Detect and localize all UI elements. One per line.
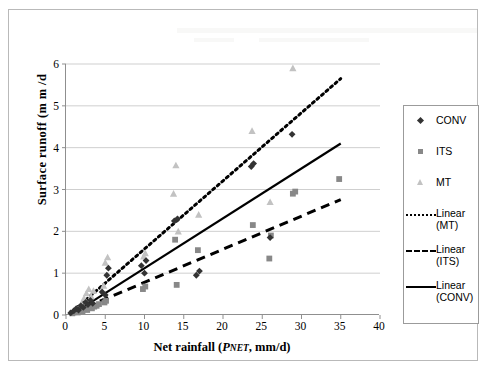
x-tick-label: 15 [163, 320, 203, 332]
legend-item[interactable]: Linear (MT) [404, 207, 478, 243]
diamond-marker-icon [417, 117, 424, 124]
data-point-square [336, 176, 342, 182]
dashed-line-icon [406, 250, 436, 252]
data-point-square [266, 256, 272, 262]
x-tick-label: 10 [124, 320, 164, 332]
legend-key [406, 208, 436, 222]
trendline-dashed [72, 200, 340, 313]
scan-artifact [259, 38, 369, 42]
legend-label: Linear (ITS) [436, 243, 465, 267]
x-tick-label: 5 [84, 320, 124, 332]
x-axis-title-subscript: NET [230, 343, 249, 353]
x-tick-label: 0 [45, 320, 85, 332]
scan-artifact [177, 28, 477, 33]
trendline-solid [72, 143, 340, 314]
chart-frame: 0123456 0510152025303540 Surface runoff … [8, 9, 478, 361]
data-point-square [142, 284, 148, 290]
legend-item[interactable]: ITS [404, 145, 478, 176]
x-tick-label: 30 [281, 320, 321, 332]
data-point-triangle [170, 190, 177, 197]
x-axis-ticks: 0510152025303540 [65, 320, 379, 336]
x-tick-label: 20 [202, 320, 242, 332]
legend-label: Linear (MT) [436, 207, 465, 231]
data-point-triangle [172, 162, 179, 169]
triangle-marker-icon [417, 179, 423, 185]
data-point-triangle [104, 254, 111, 261]
data-point-square [172, 237, 178, 243]
x-tick-label: 25 [241, 320, 281, 332]
legend-key [406, 115, 436, 129]
series-mt [69, 65, 296, 316]
y-tick-label: 1 [19, 267, 59, 279]
legend-key [406, 146, 436, 160]
legend-key [406, 280, 436, 294]
data-point-square [174, 282, 180, 288]
x-axis-title-suffix: , mm/d) [249, 340, 291, 354]
data-point-square [103, 298, 109, 304]
data-point-square [96, 301, 102, 307]
data-point-triangle [195, 211, 202, 218]
data-point-triangle [248, 127, 255, 134]
legend-item[interactable]: MT [404, 176, 478, 207]
legend-item[interactable]: Linear (ITS) [404, 243, 478, 279]
data-point-triangle [85, 285, 92, 292]
x-axis-title-symbol: P [222, 340, 230, 354]
data-point-square [195, 247, 201, 253]
solid-line-icon [406, 286, 436, 288]
plot-area [65, 64, 379, 315]
square-marker-icon [418, 149, 423, 154]
scan-artifact [194, 38, 234, 42]
chart-legend: CONVITSMTLinear (MT)Linear (ITS)Linear (… [403, 105, 479, 324]
legend-label: Linear (CONV) [436, 279, 473, 303]
data-point-square [292, 189, 298, 195]
x-axis-title-prefix: Net rainfall ( [153, 340, 222, 354]
legend-key [406, 244, 436, 258]
legend-label: MT [436, 176, 451, 188]
legend-label: ITS [436, 145, 452, 157]
data-point-diamond [289, 131, 296, 138]
x-tick-label: 35 [320, 320, 360, 332]
x-axis-title: Net rainfall (PNET, mm/d) [65, 340, 379, 355]
x-tick-label: 40 [359, 320, 399, 332]
legend-label: CONV [436, 114, 466, 126]
trendline-dotted [72, 79, 340, 312]
data-point-triangle [267, 198, 274, 205]
data-point-square [250, 222, 256, 228]
legend-item[interactable]: CONV [404, 114, 478, 145]
data-point-triangle [289, 65, 296, 72]
legend-item[interactable]: Linear (CONV) [404, 279, 478, 315]
y-axis-title: Surface runoff (m m /d [35, 15, 50, 265]
plot-canvas [66, 64, 380, 315]
legend-key [406, 177, 436, 191]
dotted-line-icon [406, 214, 436, 216]
